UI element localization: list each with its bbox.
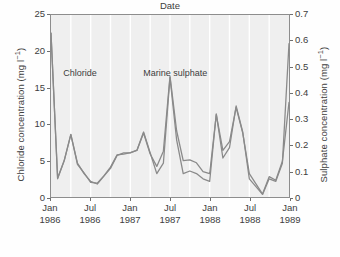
x-axis-title: Date bbox=[0, 0, 340, 11]
x-axis-tick-label: Jan1986 bbox=[30, 202, 70, 225]
y-axis-right-tick-mark bbox=[290, 14, 293, 15]
y-axis-left-tick-label: 5 bbox=[19, 155, 45, 166]
x-axis-tick-label: Jul1988 bbox=[230, 202, 270, 225]
x-tick-month: Jan bbox=[202, 202, 217, 213]
y-axis-right-tick-mark bbox=[290, 67, 293, 68]
x-axis-tick-mark bbox=[170, 198, 171, 201]
x-tick-month: Jul bbox=[164, 202, 176, 213]
y-axis-right-tick-mark bbox=[290, 40, 293, 41]
y-axis-right-tick-label: 0.1 bbox=[295, 166, 325, 177]
y-axis-left-tick-label: 20 bbox=[19, 45, 45, 56]
x-axis-tick-label: Jul1986 bbox=[70, 202, 110, 225]
y-axis-right-tick-label: 0.7 bbox=[295, 8, 325, 19]
x-axis-tick-label: Jan1988 bbox=[190, 202, 230, 225]
y-axis-left-tick-label: 25 bbox=[19, 8, 45, 19]
y-axis-right-tick-label: 0.3 bbox=[295, 113, 325, 124]
x-axis-tick-mark bbox=[90, 198, 91, 201]
y-axis-right-tick-label: 0.5 bbox=[295, 61, 325, 72]
x-tick-month: Jan bbox=[282, 202, 297, 213]
y-axis-left-tick-label: 15 bbox=[19, 82, 45, 93]
y-axis-right-tick-label: 0.6 bbox=[295, 34, 325, 45]
y-axis-right-tick-label: 0.4 bbox=[295, 87, 325, 98]
x-tick-month: Jan bbox=[122, 202, 137, 213]
x-axis-tick-label: Jul1987 bbox=[150, 202, 190, 225]
y-axis-right-tick-mark bbox=[290, 93, 293, 94]
x-tick-year: 1987 bbox=[119, 214, 140, 225]
x-tick-year: 1987 bbox=[159, 214, 180, 225]
chart-figure: Chloride concentration (mg l−1) Sulphate… bbox=[0, 0, 340, 257]
x-tick-year: 1986 bbox=[39, 214, 60, 225]
x-tick-month: Jul bbox=[84, 202, 96, 213]
x-axis-tick-mark bbox=[290, 198, 291, 201]
series-annotation-label: Chloride bbox=[63, 68, 97, 78]
y-axis-right-tick-mark bbox=[290, 172, 293, 173]
y-axis-right-tick-mark bbox=[290, 145, 293, 146]
x-axis-tick-mark bbox=[130, 198, 131, 201]
x-axis-tick-label: Jan1987 bbox=[110, 202, 150, 225]
y-axis-left-title: Chloride concentration (mg l−1) bbox=[13, 35, 26, 195]
x-tick-year: 1988 bbox=[199, 214, 220, 225]
y-axis-left-tick-label: 10 bbox=[19, 118, 45, 129]
x-tick-month: Jul bbox=[244, 202, 256, 213]
y-axis-right-tick-mark bbox=[290, 119, 293, 120]
grid-lines bbox=[71, 15, 269, 197]
y-axis-right-tick-label: 0.2 bbox=[295, 139, 325, 150]
plot-area bbox=[50, 14, 290, 198]
series-annotation-label: Marine sulphate bbox=[143, 68, 207, 78]
x-axis-tick-mark bbox=[50, 198, 51, 201]
x-tick-year: 1986 bbox=[79, 214, 100, 225]
plot-svg bbox=[51, 15, 289, 197]
x-tick-year: 1989 bbox=[279, 214, 300, 225]
x-axis-tick-mark bbox=[210, 198, 211, 201]
x-axis-tick-mark bbox=[250, 198, 251, 201]
x-tick-month: Jan bbox=[42, 202, 57, 213]
x-axis-tick-label: Jan1989 bbox=[270, 202, 310, 225]
x-tick-year: 1988 bbox=[239, 214, 260, 225]
